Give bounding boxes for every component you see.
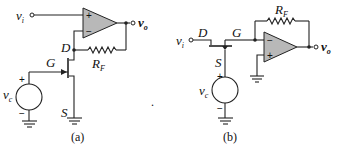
circuit-b: vi D G S + vc − − + [176, 2, 331, 144]
output-terminal-a [131, 21, 135, 25]
voltage-source-vc-b [212, 77, 238, 103]
source-label-a: S [61, 105, 68, 120]
voltage-source-vc-a [16, 84, 42, 110]
output-label-a: vo [138, 15, 148, 32]
opamp-plus-b: + [267, 50, 273, 61]
input-label-a: vi [16, 8, 24, 25]
rf-label-a: RF [91, 56, 105, 73]
rf-label-b: RF [274, 2, 288, 19]
input-terminal-a [30, 13, 34, 17]
stray-mark: . [151, 95, 154, 109]
circuit-a: vi + − vo D RF G S [3, 8, 148, 144]
ground-icon [250, 76, 264, 82]
opamp-plus-a: + [86, 10, 92, 21]
caption-b: (b) [223, 130, 237, 144]
drain-label-b: D [197, 25, 208, 40]
resistor-rf-a [88, 47, 116, 53]
ground-icon [22, 121, 37, 127]
jfet-gate-arrow-b [222, 46, 228, 50]
jfet-gate-arrow-a [61, 69, 67, 75]
caption-a: (a) [71, 130, 84, 144]
circuit-figure: vi + − vo D RF G S [0, 0, 339, 152]
drain-label-a: D [60, 40, 71, 55]
ground-icon [67, 118, 82, 124]
src-plus-a: + [19, 74, 25, 85]
output-label-b: vo [321, 39, 331, 56]
resistor-rf-b [267, 18, 295, 24]
gate-label-b: G [232, 25, 242, 40]
input-terminal-b [189, 38, 193, 42]
src-minus-a: − [19, 108, 25, 119]
src-minus-b: − [217, 103, 223, 114]
source-label-b: S [215, 55, 222, 70]
vc-label-b: vc [199, 83, 209, 100]
opamp-minus-b: − [267, 35, 273, 46]
vc-label-a: vc [3, 87, 13, 104]
opamp-minus-a: − [86, 26, 92, 37]
gate-label-a: G [46, 55, 56, 70]
output-terminal-b [314, 45, 318, 49]
ground-icon [218, 118, 233, 124]
input-label-b: vi [176, 33, 184, 50]
